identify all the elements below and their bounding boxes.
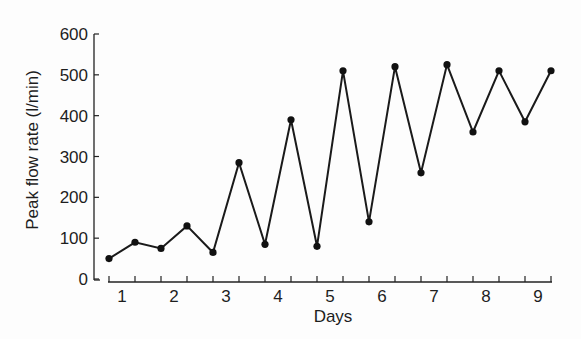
data-point-marker bbox=[443, 61, 450, 68]
data-point-marker bbox=[469, 128, 476, 135]
data-point-marker bbox=[209, 249, 216, 256]
data-point-marker bbox=[287, 116, 294, 123]
data-point-marker bbox=[495, 67, 502, 74]
x-tick-label-day: 3 bbox=[221, 287, 230, 306]
x-tick-label-day: 2 bbox=[169, 287, 178, 306]
x-tick-label-day: 4 bbox=[273, 287, 282, 306]
series-layer bbox=[105, 61, 554, 262]
x-tick-label-day: 5 bbox=[325, 287, 334, 306]
data-point-marker bbox=[547, 67, 554, 74]
y-axis: 0100200300400500600 bbox=[60, 25, 100, 289]
y-tick-label: 200 bbox=[60, 188, 88, 207]
x-tick-label-day: 1 bbox=[117, 287, 126, 306]
data-point-marker bbox=[417, 169, 424, 176]
data-point-marker bbox=[235, 159, 242, 166]
data-point-marker bbox=[521, 118, 528, 125]
data-point-marker bbox=[365, 218, 372, 225]
data-point-marker bbox=[105, 255, 112, 262]
data-point-marker bbox=[261, 241, 268, 248]
x-axis: 123456789 bbox=[108, 276, 552, 306]
peak-flow-line bbox=[109, 65, 551, 259]
y-tick-label: 600 bbox=[60, 25, 88, 44]
data-point-marker bbox=[339, 67, 346, 74]
y-tick-label: 400 bbox=[60, 107, 88, 126]
y-axis-title: Peak flow rate (l/min) bbox=[23, 70, 42, 230]
data-point-marker bbox=[131, 239, 138, 246]
chart-canvas: 0100200300400500600 123456789 Peak flow … bbox=[0, 0, 581, 339]
data-point-marker bbox=[391, 63, 398, 70]
x-axis-title: Days bbox=[314, 307, 353, 326]
y-tick-label: 300 bbox=[60, 148, 88, 167]
data-point-marker bbox=[313, 243, 320, 250]
data-point-marker bbox=[157, 245, 164, 252]
y-tick-label: 500 bbox=[60, 66, 88, 85]
y-tick-label: 100 bbox=[60, 229, 88, 248]
y-tick-label: 0 bbox=[79, 270, 88, 289]
x-tick-label-day: 9 bbox=[533, 287, 542, 306]
data-point-marker bbox=[183, 222, 190, 229]
peak-flow-chart: 0100200300400500600 123456789 Peak flow … bbox=[0, 0, 581, 339]
x-tick-label-day: 6 bbox=[377, 287, 386, 306]
x-tick-label-day: 8 bbox=[481, 287, 490, 306]
x-tick-label-day: 7 bbox=[429, 287, 438, 306]
